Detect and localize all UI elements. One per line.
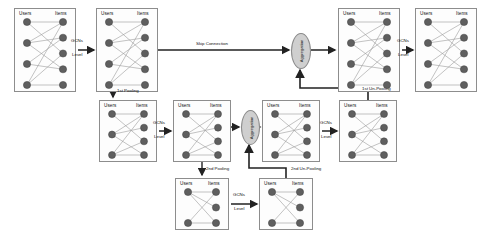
- item-node: [296, 219, 303, 226]
- graph-edge: [272, 192, 300, 208]
- user-node: [268, 188, 275, 195]
- graph-edges-g10: [0, 0, 485, 245]
- item-node: [296, 204, 303, 211]
- item-node: [296, 188, 303, 195]
- user-node: [268, 219, 275, 226]
- diagram-canvas: UsersItemsUsersItemsUsersItemsUsersItems…: [0, 0, 485, 245]
